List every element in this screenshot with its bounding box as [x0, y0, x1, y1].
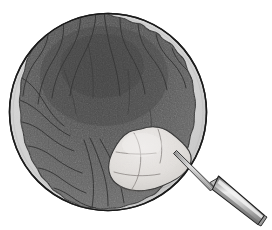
anatomical-illustration	[0, 0, 272, 230]
figure-container: Hollow organ interior with nodular mass …	[0, 0, 272, 230]
mass-highlight	[122, 133, 162, 157]
lumen-depth-shadow	[40, 26, 168, 126]
